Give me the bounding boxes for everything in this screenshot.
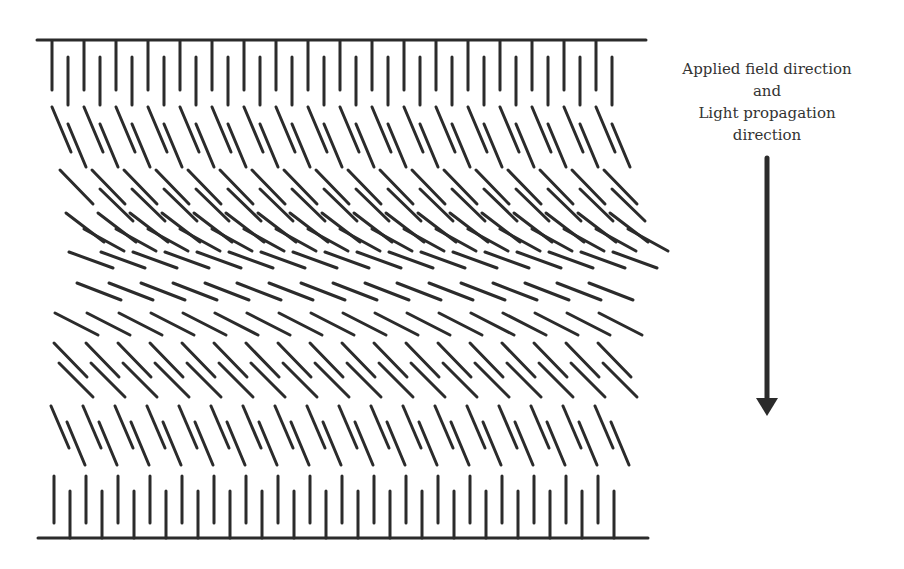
lc-molecule (598, 343, 631, 377)
lc-molecule (340, 107, 359, 152)
lc-molecule (379, 363, 413, 397)
lc-molecule (163, 422, 181, 465)
lc-molecule (452, 124, 470, 167)
lc-molecule (404, 229, 444, 251)
lc-molecule (123, 363, 157, 397)
lc-molecule (212, 107, 231, 152)
lc-molecule (436, 107, 455, 152)
lc-molecule (180, 107, 199, 152)
lc-molecule (83, 406, 101, 448)
lc-molecule (164, 124, 182, 167)
lc-molecule (564, 229, 604, 251)
lc-molecule (275, 406, 293, 448)
lc-molecule (323, 422, 341, 465)
lc-molecule (54, 343, 87, 377)
lc-molecule (187, 363, 221, 397)
lc-molecule (347, 363, 381, 397)
lc-molecule (451, 422, 469, 465)
lc-molecule (308, 229, 348, 251)
lc-molecule (435, 406, 453, 448)
lc-molecule (436, 229, 476, 251)
lc-molecule (324, 124, 342, 167)
lc-molecule (227, 422, 245, 465)
lc-molecule (228, 124, 246, 167)
lc-molecule (99, 422, 117, 465)
label-line-1: Applied field direction (650, 58, 884, 80)
lc-molecule (259, 422, 277, 465)
lc-molecule (132, 124, 150, 167)
lc-molecule (468, 107, 487, 152)
lc-molecule (60, 170, 93, 204)
arrow-head (756, 398, 778, 416)
lc-molecule (500, 107, 519, 152)
lc-molecule (339, 406, 357, 448)
lc-molecule (155, 363, 189, 397)
lc-molecule (611, 422, 629, 465)
lc-molecule (532, 107, 551, 152)
lc-molecule (596, 229, 636, 251)
lc-molecule (116, 229, 156, 251)
lc-molecule (372, 107, 391, 152)
lc-molecule (308, 107, 327, 152)
lc-molecule (86, 343, 119, 377)
lc-molecule (68, 124, 86, 167)
lc-molecule (292, 124, 310, 167)
lc-molecule (356, 124, 374, 167)
lc-molecule (182, 343, 215, 377)
lc-molecule (507, 363, 541, 397)
lc-molecule (579, 422, 597, 465)
lc-molecule (251, 363, 285, 397)
lc-molecule (484, 124, 502, 167)
lc-molecule (603, 363, 637, 397)
lc-molecule (315, 363, 349, 397)
lc-molecule (566, 343, 599, 377)
lc-molecule (580, 124, 598, 167)
lc-molecule (388, 124, 406, 167)
lc-molecule (547, 422, 565, 465)
lc-molecule (148, 107, 167, 152)
lc-molecule (115, 406, 133, 448)
lc-molecule (147, 406, 165, 448)
lc-molecule (283, 363, 317, 397)
lc-molecule (499, 406, 517, 448)
lc-molecule (468, 229, 508, 251)
lc-molecule (475, 363, 509, 397)
lc-molecule (612, 124, 630, 167)
lc-molecule (470, 343, 503, 377)
lc-molecules (51, 41, 668, 538)
lc-molecule (438, 343, 471, 377)
lc-molecule (628, 229, 668, 251)
label-line-3: Light propagation (650, 102, 884, 124)
lc-molecule (532, 229, 572, 251)
lc-molecule (531, 406, 549, 448)
lc-molecule (211, 406, 229, 448)
lc-molecule (91, 363, 125, 397)
lc-molecule (179, 406, 197, 448)
lc-molecule (195, 422, 213, 465)
lc-molecule (534, 343, 567, 377)
lc-molecule (244, 229, 284, 251)
lc-molecule (483, 422, 501, 465)
lc-molecule (52, 107, 71, 152)
lc-molecule (180, 229, 220, 251)
lc-molecule (276, 229, 316, 251)
lc-molecule (310, 343, 343, 377)
lc-molecule (243, 406, 261, 448)
lc-molecule (355, 422, 373, 465)
lc-molecule (278, 343, 311, 377)
lc-molecule (148, 229, 188, 251)
lc-molecule (219, 363, 253, 397)
lc-molecule (307, 406, 325, 448)
lc-molecule (374, 343, 407, 377)
lc-molecule (411, 363, 445, 397)
lc-molecule (443, 363, 477, 397)
lc-molecule (404, 107, 423, 152)
lc-molecule (244, 107, 263, 152)
lc-molecule (571, 363, 605, 397)
label-line-2: and (650, 80, 884, 102)
lc-molecule (371, 406, 389, 448)
lc-molecule (51, 406, 69, 448)
lc-molecule (502, 343, 535, 377)
lc-molecule (150, 343, 183, 377)
lc-molecule (467, 406, 485, 448)
